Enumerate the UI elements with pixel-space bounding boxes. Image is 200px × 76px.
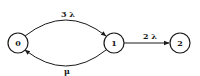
- node-label-2: 2: [177, 38, 183, 48]
- edge-label-1-to-2: 2 λ: [143, 31, 157, 41]
- edge-label-0-to-1: 3 λ: [61, 9, 75, 19]
- edge-0-to-1: [25, 20, 106, 36]
- node-2: 2: [170, 33, 190, 53]
- node-1: 1: [104, 33, 124, 53]
- node-label-0: 0: [15, 38, 21, 48]
- state-diagram: 3 λ μ 2 λ 0 1 2: [0, 0, 200, 76]
- diagram-canvas: 3 λ μ 2 λ 0 1 2: [0, 0, 200, 76]
- edge-label-1-to-0: μ: [64, 66, 70, 76]
- node-label-1: 1: [111, 38, 117, 48]
- edge-1-to-0: [25, 50, 106, 66]
- node-0: 0: [8, 33, 28, 53]
